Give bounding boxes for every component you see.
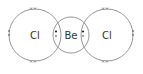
- bond-pair-right: [82, 30, 84, 37]
- beryllium-label: Be: [64, 30, 77, 41]
- chlorine-right-label: Cl: [102, 30, 112, 41]
- chlorine-left-label: Cl: [30, 30, 40, 41]
- bond-pair-left: [55, 30, 57, 37]
- becl2-diagram: Cl Be Cl: [0, 0, 143, 74]
